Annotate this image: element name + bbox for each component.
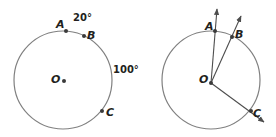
arc-ab-measure: 20°: [73, 12, 92, 23]
left-point-b: [82, 34, 86, 38]
left-label-c: C: [106, 106, 114, 119]
left-label-b: B: [87, 29, 95, 42]
left-label-a: A: [55, 18, 65, 31]
arc-bc-measure: 100°: [113, 64, 139, 75]
right-label-a: A: [204, 20, 214, 33]
left-figure: O A B C 20° 100°: [14, 12, 139, 129]
right-point-b: [230, 35, 234, 39]
left-point-a: [64, 29, 68, 33]
right-center-point: [209, 81, 213, 85]
central-angle-diagram: O A B C 20° 100° O A B C: [0, 0, 276, 137]
right-center-label: O: [199, 73, 208, 86]
right-point-a: [213, 29, 217, 33]
left-point-c: [100, 109, 104, 113]
left-center-label: O: [51, 73, 60, 86]
right-label-c: C: [253, 107, 261, 120]
right-figure: O A B C: [162, 9, 264, 129]
left-center-point: [62, 79, 66, 83]
right-label-b: B: [235, 28, 243, 41]
